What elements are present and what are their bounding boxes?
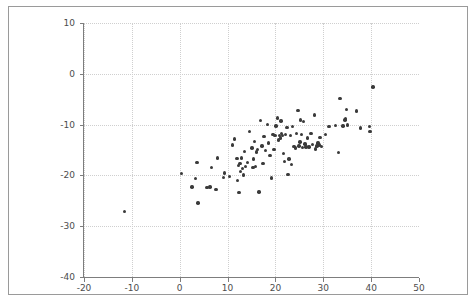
- scatter-point: [250, 146, 253, 149]
- gridline-horizontal: [84, 74, 419, 75]
- x-axis-tick-label: 20: [270, 283, 281, 293]
- scatter-point: [291, 125, 294, 128]
- scatter-point: [334, 124, 337, 127]
- scatter-point: [324, 133, 327, 136]
- scatter-point: [341, 124, 344, 127]
- scatter-point: [272, 148, 275, 151]
- scatter-point: [309, 132, 312, 135]
- scatter-point: [327, 125, 330, 128]
- scatter-point: [210, 166, 213, 169]
- y-axis-tick-mark: [80, 74, 84, 75]
- x-axis-tick-mark: [228, 278, 229, 282]
- gridline-horizontal: [84, 23, 419, 24]
- scatter-point: [284, 133, 287, 136]
- scatter-point: [252, 157, 255, 160]
- scatter-plot-axes: -20-1001020304050 100-10-20-30-40: [83, 23, 419, 278]
- scatter-point: [287, 157, 290, 160]
- scatter-point: [254, 165, 257, 168]
- scatter-point: [313, 113, 316, 116]
- scatter-point: [244, 165, 247, 168]
- scatter-point: [286, 173, 289, 176]
- scatter-point: [285, 126, 288, 129]
- scatter-point: [233, 137, 236, 140]
- scatter-point: [346, 123, 349, 126]
- x-axis-tick-label: -10: [124, 283, 139, 293]
- scatter-point: [262, 135, 265, 138]
- x-axis-tick-label: 0: [177, 283, 183, 293]
- gridline-vertical: [228, 23, 229, 277]
- gridline-horizontal: [84, 226, 419, 227]
- scatter-point: [242, 173, 245, 176]
- gridline-horizontal: [84, 175, 419, 176]
- scatter-point: [282, 152, 285, 155]
- scatter-point: [228, 175, 231, 178]
- scatter-point: [237, 191, 240, 194]
- gridline-vertical: [180, 23, 181, 277]
- scatter-point: [190, 185, 193, 188]
- y-axis-tick-label: -20: [60, 170, 75, 180]
- scatter-point: [359, 126, 362, 129]
- y-axis-tick-mark: [80, 277, 84, 278]
- x-axis-tick-label: 30: [318, 283, 329, 293]
- scatter-point: [264, 149, 267, 152]
- y-axis-tick-mark: [80, 226, 84, 227]
- x-axis-tick-mark: [84, 278, 85, 282]
- scatter-point: [248, 130, 251, 133]
- x-axis-tick-mark: [275, 278, 276, 282]
- x-axis-tick-label: 40: [365, 283, 376, 293]
- scatter-point: [238, 162, 241, 165]
- scatter-point: [296, 109, 299, 112]
- y-axis-tick-mark: [80, 175, 84, 176]
- scatter-point: [235, 157, 238, 160]
- scatter-point: [123, 210, 126, 213]
- scatter-point: [266, 123, 269, 126]
- scatter-point: [231, 143, 234, 146]
- scatter-point: [314, 147, 317, 150]
- scatter-point: [371, 85, 374, 88]
- scatter-point: [300, 133, 303, 136]
- scatter-point: [337, 151, 340, 154]
- gridline-vertical: [323, 23, 324, 277]
- scatter-point: [223, 171, 226, 174]
- scatter-point: [268, 154, 271, 157]
- x-axis-tick-mark: [323, 278, 324, 282]
- x-axis-tick-label: 50: [413, 283, 424, 293]
- scatter-point: [208, 185, 211, 188]
- scatter-point: [345, 108, 348, 111]
- scatter-point: [338, 97, 341, 100]
- figure-canvas: -20-1001020304050 100-10-20-30-40: [0, 0, 476, 303]
- scatter-point: [311, 143, 314, 146]
- scatter-point: [243, 150, 246, 153]
- scatter-point: [267, 141, 270, 144]
- scatter-point: [196, 201, 199, 204]
- scatter-point: [214, 188, 217, 191]
- plot-area: [84, 23, 419, 277]
- scatter-point: [216, 156, 219, 159]
- scatter-point: [222, 176, 225, 179]
- scatter-point: [195, 161, 198, 164]
- scatter-point: [194, 177, 197, 180]
- scatter-point: [318, 136, 321, 139]
- x-axis-tick-mark: [419, 278, 420, 282]
- scatter-point: [236, 179, 239, 182]
- scatter-point: [240, 156, 243, 159]
- gridline-vertical: [84, 23, 85, 277]
- scatter-point: [270, 176, 273, 179]
- scatter-point: [261, 162, 264, 165]
- scatter-point: [257, 190, 260, 193]
- x-axis-tick-mark: [180, 278, 181, 282]
- x-axis-tick-mark: [371, 278, 372, 282]
- y-axis-tick-label: 10: [64, 18, 75, 28]
- scatter-point: [290, 163, 293, 166]
- gridline-vertical: [371, 23, 372, 277]
- scatter-point: [260, 144, 263, 147]
- y-axis-tick-mark: [80, 23, 84, 24]
- x-axis-tick-label: 10: [222, 283, 233, 293]
- scatter-point: [256, 148, 259, 151]
- y-axis-tick-label: -10: [60, 120, 75, 130]
- scatter-point: [246, 161, 249, 164]
- scatter-point: [279, 119, 282, 122]
- scatter-point: [298, 140, 301, 143]
- gridline-vertical: [132, 23, 133, 277]
- scatter-point: [283, 160, 286, 163]
